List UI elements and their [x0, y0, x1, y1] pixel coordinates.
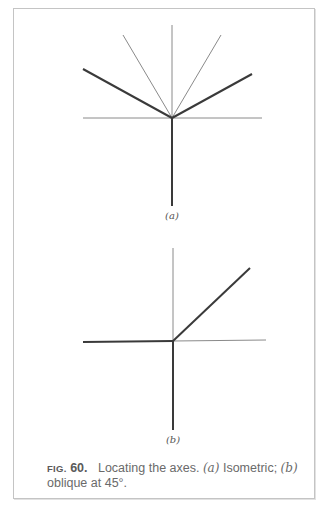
thin-horizontal-right-line: [173, 340, 266, 341]
figure-prefix: FIG.: [47, 463, 67, 474]
panel-a-isometric: [83, 25, 262, 206]
panel-a-label: (a): [152, 210, 192, 221]
caption-b-text: oblique at 45°.: [47, 476, 127, 490]
thick-axis-diagonal-45: [173, 268, 250, 341]
figure-number: FIG. 60.: [47, 461, 88, 475]
thick-axis-horizontal-left: [83, 341, 173, 342]
thick-axis-left: [83, 69, 172, 118]
figure-number-value: 60.: [70, 461, 87, 475]
caption-a-text: Isometric;: [223, 461, 277, 475]
figure-drawing: [0, 0, 329, 506]
thick-axis-right: [172, 74, 252, 118]
panel-b-label: (b): [153, 434, 193, 445]
caption-text: Locating the axes.: [98, 461, 199, 475]
panel-b-oblique: [83, 248, 266, 430]
figure-caption: FIG. 60. Locating the axes. (a) Isometri…: [47, 461, 302, 491]
caption-a-label: (a): [203, 461, 220, 475]
caption-b-label: (b): [281, 461, 298, 475]
